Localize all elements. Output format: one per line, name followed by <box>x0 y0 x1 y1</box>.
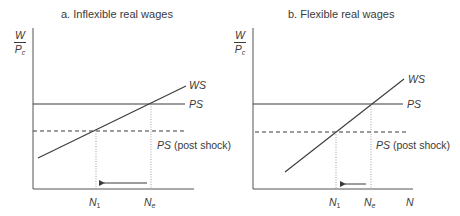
panel-b-n1-label: N1 <box>329 197 341 209</box>
panel-b-ps-post-shock-label: PS (post shock) <box>376 140 450 151</box>
panel-a-y-axis-label: W Pc <box>14 30 26 56</box>
diagram-canvas <box>0 0 460 216</box>
panel-a-ws-label: WS <box>189 80 206 91</box>
panel-a-plot <box>33 28 194 189</box>
panel-a-n1-label: N1 <box>89 197 101 209</box>
panel-b-ws-label: WS <box>408 74 425 85</box>
panel-b-ne-label: Ne <box>364 197 376 209</box>
panel-b-x-axis-label: N <box>406 197 414 208</box>
panel-b-plot <box>253 28 413 189</box>
panel-b-ws-line <box>285 79 404 172</box>
panel-a-ps-label: PS <box>189 99 203 110</box>
panel-a-ps-post-shock-label: PS (post shock) <box>157 140 231 151</box>
panel-a-ne-label: Ne <box>144 197 156 209</box>
panel-b-y-axis-label: W Pc <box>234 30 246 56</box>
panel-b-ps-label: PS <box>407 99 421 110</box>
